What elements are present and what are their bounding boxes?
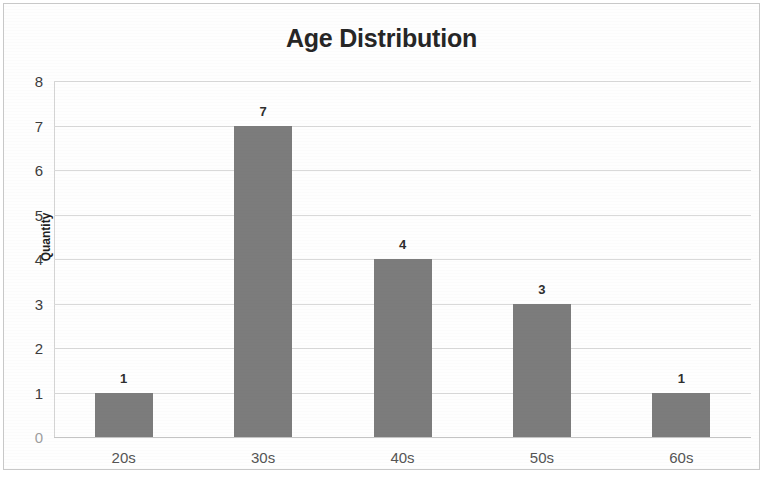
x-tick-label-20s: 20s bbox=[84, 449, 164, 466]
bar-value-label-20s: 1 bbox=[94, 371, 154, 386]
y-tick-label-8: 8 bbox=[35, 73, 43, 90]
bar-value-label-30s: 7 bbox=[233, 104, 293, 119]
y-tick-label-7: 7 bbox=[35, 117, 43, 134]
x-tick-label-50s: 50s bbox=[502, 449, 582, 466]
y-tick-label-3: 3 bbox=[35, 295, 43, 312]
gridline-8 bbox=[54, 81, 751, 82]
x-tick-label-30s: 30s bbox=[223, 449, 303, 466]
bar-50s bbox=[513, 304, 571, 438]
gridline-0 bbox=[54, 437, 751, 438]
bar-20s bbox=[95, 393, 153, 438]
y-tick-label-2: 2 bbox=[35, 340, 43, 357]
gridline-5 bbox=[54, 215, 751, 216]
bar-value-label-40s: 4 bbox=[373, 237, 433, 252]
bar-60s bbox=[652, 393, 710, 438]
y-tick-label-6: 6 bbox=[35, 162, 43, 179]
x-tick-label-40s: 40s bbox=[363, 449, 443, 466]
plot-area: 012345678 17431 20s30s40s50s60s bbox=[54, 81, 751, 437]
x-tick-label-60s: 60s bbox=[641, 449, 721, 466]
gridline-7 bbox=[54, 126, 751, 127]
y-tick-label-0: 0 bbox=[35, 429, 43, 446]
gridline-6 bbox=[54, 170, 751, 171]
bar-40s bbox=[374, 259, 432, 437]
y-tick-label-4: 4 bbox=[35, 251, 43, 268]
chart-title: Age Distribution bbox=[4, 24, 759, 53]
y-tick-label-5: 5 bbox=[35, 206, 43, 223]
bar-value-label-50s: 3 bbox=[512, 282, 572, 297]
bar-30s bbox=[234, 126, 292, 438]
y-tick-label-1: 1 bbox=[35, 384, 43, 401]
chart-container: Age Distribution Quantity 012345678 1743… bbox=[3, 3, 760, 470]
bar-value-label-60s: 1 bbox=[651, 371, 711, 386]
